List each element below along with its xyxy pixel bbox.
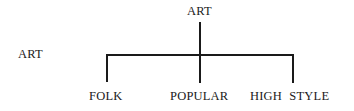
child-node-high-style: HIGH STYLE (250, 90, 329, 103)
child-node-folk: FOLK (89, 90, 122, 103)
child-node-popular: POPULAR (170, 90, 228, 103)
